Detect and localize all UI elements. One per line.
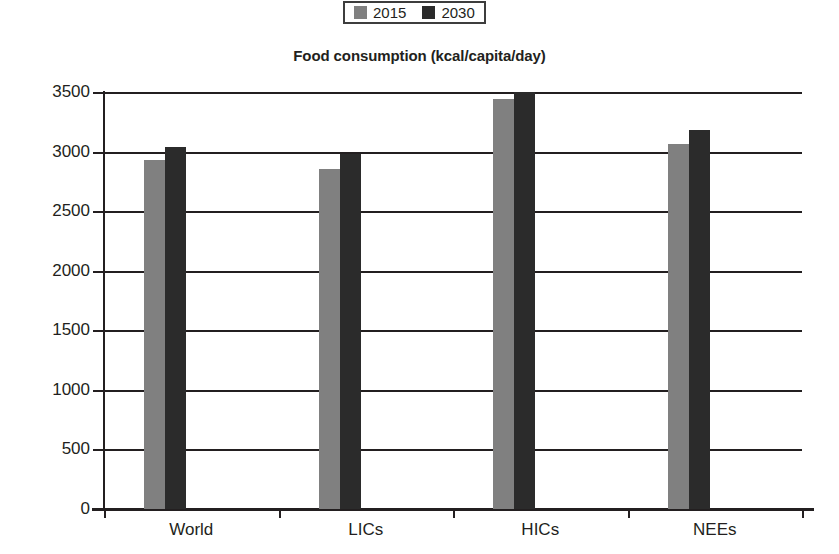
x-tick-mark-1 — [279, 508, 281, 518]
y-tick-label-3500: 3500 — [52, 83, 90, 100]
legend-swatch-2030 — [422, 6, 435, 19]
x-tick-mark-0 — [104, 508, 106, 518]
y-tick-label-500: 500 — [62, 440, 90, 457]
y-axis-tick-labels: 3500300025002000150010005000 — [0, 0, 90, 554]
y-tick-mark-500 — [93, 449, 104, 451]
y-tick-mark-1500 — [93, 330, 104, 332]
legend-label-2030: 2030 — [441, 5, 474, 20]
bar-chart-figure: 2015 2030 Food consumption (kcal/capita/… — [0, 0, 839, 554]
bar-nees-2015 — [668, 144, 689, 509]
bar-world-2015 — [144, 160, 165, 509]
x-tick-mark-2 — [453, 508, 455, 518]
x-category-label-world: World — [131, 520, 251, 539]
y-tick-label-3000: 3000 — [52, 143, 90, 160]
bar-lics-2030 — [340, 154, 361, 509]
y-tick-label-1500: 1500 — [52, 321, 90, 338]
bar-nees-2030 — [689, 130, 710, 509]
x-category-label-lics: LICs — [306, 520, 426, 539]
bar-hics-2015 — [493, 99, 514, 509]
bar-world-2030 — [165, 147, 186, 509]
x-category-label-hics: HICs — [480, 520, 600, 539]
x-category-label-nees: NEEs — [655, 520, 775, 539]
y-tick-mark-2000 — [93, 271, 104, 273]
legend-swatch-2015 — [354, 6, 367, 19]
y-tick-mark-3000 — [93, 152, 104, 154]
legend-entry-2030: 2030 — [422, 5, 474, 20]
bar-hics-2030 — [514, 92, 535, 509]
y-tick-mark-1000 — [93, 390, 104, 392]
y-tick-label-0: 0 — [81, 500, 90, 517]
x-tick-mark-3 — [628, 508, 630, 518]
x-tick-mark-4 — [802, 508, 804, 518]
chart-title: Food consumption (kcal/capita/day) — [0, 47, 839, 64]
y-tick-mark-2500 — [93, 211, 104, 213]
y-tick-mark-3500 — [93, 92, 104, 94]
y-tick-label-2000: 2000 — [52, 262, 90, 279]
bars-layer — [104, 92, 802, 509]
y-tick-label-2500: 2500 — [52, 202, 90, 219]
chart-legend: 2015 2030 — [343, 1, 486, 24]
plot-area — [104, 92, 802, 509]
y-tick-label-1000: 1000 — [52, 381, 90, 398]
bar-lics-2015 — [319, 169, 340, 509]
legend-entry-2015: 2015 — [354, 5, 406, 20]
legend-label-2015: 2015 — [373, 5, 406, 20]
y-tick-mark-0 — [93, 509, 104, 511]
